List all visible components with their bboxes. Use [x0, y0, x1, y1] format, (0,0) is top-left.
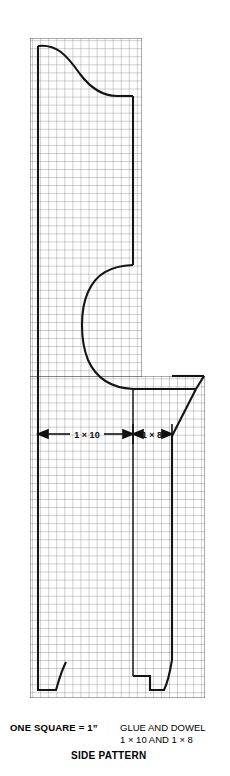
scale-caption: ONE SQUARE = 1”: [10, 722, 98, 733]
graph-grid-upper: [30, 38, 142, 377]
glue-dowel-caption-line2: 1 × 10 AND 1 × 8: [120, 734, 193, 745]
dimension-label-left: 1 × 10: [74, 430, 99, 440]
pattern-title: SIDE PATTERN: [71, 750, 146, 761]
pattern-drawing-page: 1 × 10 1 × 8 ONE SQUARE = 1” GLUE AND DO…: [0, 0, 230, 776]
side-pattern-drawing: 1 × 10 1 × 8: [0, 0, 230, 776]
glue-dowel-caption-line1: GLUE AND DOWEL: [120, 722, 206, 733]
dimension-label-right: 1 × 8: [142, 430, 162, 440]
